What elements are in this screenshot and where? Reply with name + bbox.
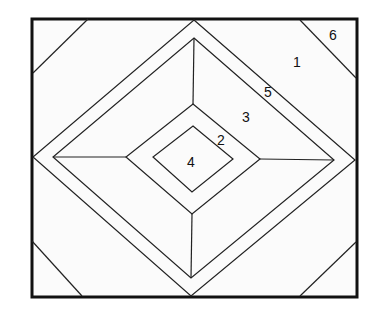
region-label-4: 4 xyxy=(187,154,195,170)
region-label-1: 1 xyxy=(293,54,301,70)
region-label-3: 3 xyxy=(242,109,250,125)
region-label-5: 5 xyxy=(264,84,272,100)
region-label-2: 2 xyxy=(217,132,225,148)
quilt-block-diagram: 1 2 3 4 5 6 xyxy=(0,0,378,314)
region-label-6: 6 xyxy=(329,27,337,43)
